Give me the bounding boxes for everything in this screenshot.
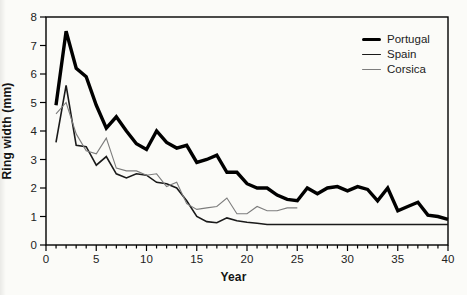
- ring-width-chart: 0123456780510152025303540 Ring width (mm…: [0, 0, 467, 295]
- y-tick-label: 5: [31, 97, 37, 109]
- y-tick-label: 7: [31, 40, 37, 52]
- x-axis-title: Year: [0, 270, 467, 284]
- x-tick-label: 10: [140, 253, 153, 265]
- x-tick-label: 20: [241, 253, 254, 265]
- legend-line-sample: [362, 38, 381, 41]
- legend-line-sample: [362, 54, 381, 55]
- y-tick-label: 3: [31, 154, 37, 166]
- y-tick-label: 6: [31, 68, 37, 80]
- legend-item-spain: Spain: [362, 48, 430, 60]
- x-tick-label: 30: [341, 253, 354, 265]
- x-tick-label: 0: [43, 253, 49, 265]
- legend-line-sample: [362, 69, 381, 70]
- y-tick-label: 8: [31, 11, 37, 23]
- y-tick-label: 2: [31, 182, 37, 194]
- series-line-spain: [56, 85, 448, 224]
- legend-label: Corsica: [387, 63, 426, 75]
- x-tick-label: 25: [291, 253, 304, 265]
- legend-item-portugal: Portugal: [362, 33, 430, 45]
- x-tick-label: 15: [190, 253, 203, 265]
- legend-item-corsica: Corsica: [362, 63, 430, 75]
- y-tick-label: 0: [31, 239, 37, 251]
- x-tick-label: 35: [391, 253, 404, 265]
- x-tick-label: 5: [93, 253, 99, 265]
- legend-label: Portugal: [387, 33, 430, 45]
- y-tick-label: 1: [31, 211, 37, 223]
- x-tick-label: 40: [442, 253, 455, 265]
- y-tick-label: 4: [31, 125, 38, 137]
- y-axis-title: Ring width (mm): [0, 76, 16, 186]
- legend: PortugalSpainCorsica: [362, 33, 430, 75]
- legend-label: Spain: [387, 48, 416, 60]
